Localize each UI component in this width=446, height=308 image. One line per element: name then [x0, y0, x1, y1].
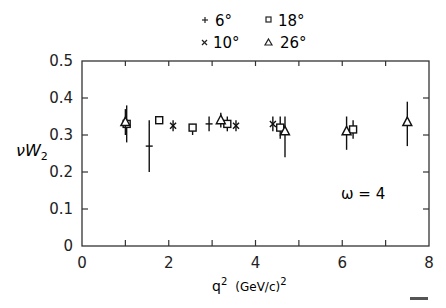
y-axis-label-main: νW	[16, 141, 42, 160]
legend-label-10: 10°	[213, 34, 240, 52]
y-tick-label: 0.2	[49, 163, 73, 181]
legend-square-icon	[266, 17, 271, 22]
data-point-square	[189, 124, 196, 135]
legend-plus-icon	[202, 17, 208, 23]
data-point-triangle	[403, 102, 412, 146]
plot-frame	[82, 61, 429, 246]
axis-ticks: 00.10.20.30.40.502468	[49, 52, 434, 272]
data-point-cross	[233, 120, 239, 131]
square-marker-icon	[350, 126, 357, 133]
x-axis-label: q2(GeV/c)2	[212, 276, 287, 294]
y-tick-label: 0.4	[49, 89, 73, 107]
data-point-plus	[146, 120, 153, 172]
figure-id-stamp	[410, 297, 428, 300]
x-axis-label-units-sup: 2	[280, 276, 286, 287]
triangle-marker-icon	[403, 117, 412, 126]
y-axis-label: νW2	[16, 141, 48, 163]
square-marker-icon	[156, 117, 163, 124]
data-point-square	[350, 120, 357, 139]
y-tick-label: 0	[63, 237, 73, 255]
data-point-square	[156, 117, 163, 124]
data-point-plus	[206, 117, 213, 132]
x-tick-label: 2	[164, 254, 174, 272]
x-tick-label: 4	[251, 254, 261, 272]
y-tick-label: 0.1	[49, 200, 73, 218]
square-marker-icon	[189, 124, 196, 131]
y-tick-label: 0.5	[49, 52, 73, 70]
legend-label-6: 6°	[215, 12, 232, 30]
triangle-marker-icon	[216, 115, 225, 124]
x-tick-label: 8	[424, 254, 434, 272]
plot-border	[82, 61, 429, 246]
x-tick-label: 6	[337, 254, 347, 272]
data-point-triangle	[342, 117, 351, 150]
legend-triangle-icon	[265, 39, 272, 45]
data-points	[121, 102, 412, 172]
data-point-triangle	[121, 109, 130, 135]
x-axis-label-sup: 2	[221, 276, 227, 287]
data-point-cross	[170, 120, 176, 131]
x-axis-label-main: q	[212, 278, 221, 294]
legend-cross-icon	[202, 40, 207, 45]
data-point-triangle	[280, 117, 289, 158]
data-point-cross	[270, 117, 276, 132]
y-axis-label-sub: 2	[41, 150, 48, 163]
x-tick-label: 0	[77, 254, 87, 272]
x-axis-label-units: (GeV/c)	[235, 280, 280, 294]
legend-label-26: 26°	[280, 34, 307, 52]
y-tick-label: 0.3	[49, 126, 73, 144]
omega-annotation: ω = 4	[341, 185, 385, 203]
legend-label-18: 18°	[278, 12, 305, 30]
chart: 00.10.20.30.40.502468 6° 10° 18° 26° νW2…	[0, 0, 446, 308]
